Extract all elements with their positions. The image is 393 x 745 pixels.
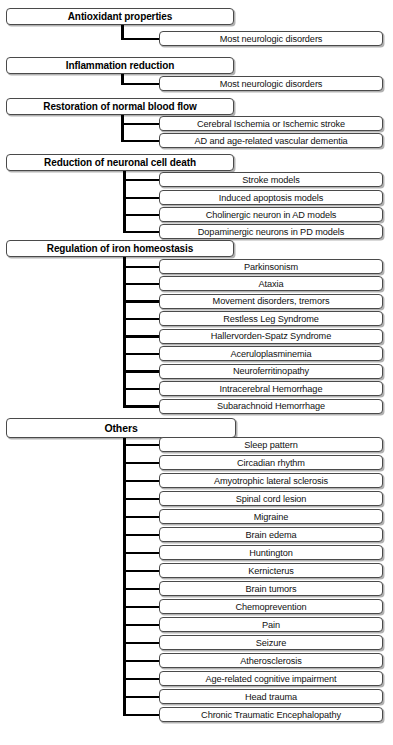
leaf-node: Cerebral Ischemia or Ischemic stroke: [159, 116, 383, 131]
leaf-node: Subarachnoid Hemorrhage: [159, 399, 383, 414]
leaf-node: Seizure: [159, 635, 383, 650]
section-header-1: Antioxidant properties: [6, 8, 234, 25]
leaf-node: Migraine: [159, 509, 383, 524]
section-header-5: Regulation of iron homeostasis: [6, 240, 234, 257]
connector-branch: [123, 480, 159, 483]
leaf-node: Ataxia: [159, 276, 383, 291]
leaf-node: Stroke models: [159, 172, 383, 187]
connector-branch: [123, 606, 159, 609]
leaf-node: Sleep pattern: [159, 437, 383, 452]
leaf-node: Pain: [159, 617, 383, 632]
leaf-node: Kernicterus: [159, 563, 383, 578]
connector-branch: [123, 231, 159, 234]
leaf-node: Neuroferritinopathy: [159, 364, 383, 379]
section-header-2: Inflammation reduction: [6, 57, 234, 74]
connector-branch: [123, 660, 159, 663]
connector-branch: [123, 444, 159, 447]
leaf-node: Chronic Traumatic Encephalopathy: [159, 707, 383, 722]
connector-branch: [123, 462, 159, 465]
connector-branch: [123, 353, 159, 356]
section-header-4: Reduction of neuronal cell death: [6, 154, 234, 171]
leaf-node: Brain edema: [159, 527, 383, 542]
leaf-node: Restless Leg Syndrome: [159, 311, 383, 326]
connector-branch: [121, 123, 159, 126]
connector-branch: [121, 38, 159, 41]
leaf-node: Huntington: [159, 545, 383, 560]
leaf-node: Amyotrophic lateral sclerosis: [159, 473, 383, 488]
section-header-3: Restoration of normal blood flow: [6, 98, 234, 115]
connector-branch: [123, 642, 159, 645]
connector-branch: [123, 405, 159, 408]
connector-branch: [123, 388, 159, 391]
connector-trunk-section-1: [121, 24, 124, 39]
connector-branch: [123, 266, 159, 269]
connector-branch: [123, 552, 159, 555]
leaf-node: Most neurologic disorders: [159, 76, 383, 91]
leaf-node: Movement disorders, tremors: [159, 294, 383, 309]
connector-branch: [123, 318, 159, 321]
connector-branch: [123, 696, 159, 699]
leaf-node: Intracerebral Hemorrhage: [159, 381, 383, 396]
leaf-node: Dopaminergic neurons in PD models: [159, 224, 383, 239]
connector-trunk-section-3: [121, 114, 124, 141]
connector-branch: [123, 498, 159, 501]
diagram-canvas: Antioxidant propertiesMost neurologic di…: [0, 0, 393, 745]
leaf-node: Chemoprevention: [159, 599, 383, 614]
connector-branch: [123, 714, 159, 717]
connector-branch: [123, 624, 159, 627]
leaf-node: Spinal cord lesion: [159, 491, 383, 506]
section-header-6: Others: [6, 418, 236, 438]
connector-branch: [123, 588, 159, 591]
connector-branch: [123, 283, 159, 286]
leaf-node: Hallervorden-Spatz Syndrome: [159, 329, 383, 344]
leaf-node: Most neurologic disorders: [159, 31, 383, 46]
connector-branch: [121, 140, 159, 143]
connector-branch: [123, 370, 159, 373]
leaf-node: Cholinergic neuron in AD models: [159, 207, 383, 222]
connector-branch: [123, 214, 159, 217]
connector-branch: [123, 516, 159, 519]
leaf-node: Brain tumors: [159, 581, 383, 596]
connector-trunk-section-5: [123, 256, 126, 406]
connector-branch: [123, 335, 159, 338]
leaf-node: Circadian rhythm: [159, 455, 383, 470]
leaf-node: AD and age-related vascular dementia: [159, 133, 383, 148]
connector-branch: [123, 534, 159, 537]
leaf-node: Aceruloplasminemia: [159, 346, 383, 361]
connector-branch: [123, 300, 159, 303]
connector-branch: [123, 570, 159, 573]
connector-branch: [121, 83, 159, 86]
leaf-node: Atherosclerosis: [159, 653, 383, 668]
leaf-node: Age-related cognitive impairment: [159, 671, 383, 686]
connector-branch: [123, 678, 159, 681]
leaf-node: Head trauma: [159, 689, 383, 704]
leaf-node: Induced apoptosis models: [159, 190, 383, 205]
connector-branch: [123, 179, 159, 182]
leaf-node: Parkinsonism: [159, 259, 383, 274]
connector-branch: [123, 197, 159, 200]
